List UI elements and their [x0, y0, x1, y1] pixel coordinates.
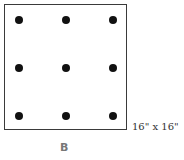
grid-dot — [62, 64, 70, 72]
figure-label: B — [60, 141, 68, 154]
grid-dot — [109, 64, 117, 72]
grid-dot — [62, 16, 70, 24]
grid-dot — [109, 112, 117, 120]
caption-partial — [0, 157, 184, 160]
grid-dot — [109, 16, 117, 24]
dimension-label: 16" x 16" — [132, 121, 179, 132]
grid-dot — [15, 16, 23, 24]
grid-dot — [15, 112, 23, 120]
grid-dot — [15, 64, 23, 72]
grid-dot — [62, 112, 70, 120]
